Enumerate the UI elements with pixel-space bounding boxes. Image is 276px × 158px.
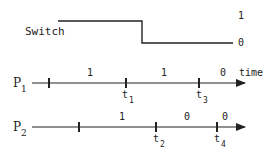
p2-timeline: P 2 1 0 0 t 2 t 4 (13, 111, 245, 149)
p1-tick-t3-label: t (196, 89, 202, 100)
p1-tick-t1-sub: 1 (129, 96, 134, 105)
switch-label: Switch (25, 25, 65, 38)
p1-segment-3: 0 (220, 67, 226, 78)
switch-signal: Switch 1 0 (25, 10, 244, 48)
p1-segment-1: 1 (87, 67, 93, 78)
p1-segment-2: 1 (161, 67, 167, 78)
time-axis-label: time (239, 67, 263, 78)
p1-timeline: P 1 1 1 0 time t 1 t 3 (13, 67, 263, 105)
p2-tick-t4-label: t (214, 133, 220, 144)
p2-segment-3: 0 (222, 111, 228, 122)
p1-tick-t1-label: t (122, 89, 128, 100)
p2-label: P (13, 120, 21, 134)
p2-subscript: 2 (21, 128, 27, 138)
p1-subscript: 1 (21, 84, 27, 94)
timing-diagram: Switch 1 0 P 1 1 1 0 time t 1 t 3 P 2 1 … (0, 0, 276, 158)
p2-tick-t2-sub: 2 (160, 140, 165, 149)
p1-label: P (13, 76, 21, 90)
p2-tick-t2-label: t (153, 133, 159, 144)
p2-segment-2: 0 (184, 111, 190, 122)
p1-tick-t3-sub: 3 (203, 96, 208, 105)
p2-tick-t4-sub: 4 (221, 140, 226, 149)
switch-low-label: 0 (238, 37, 244, 48)
switch-waveform (58, 21, 233, 43)
p2-segment-1: 1 (119, 111, 125, 122)
switch-high-label: 1 (238, 10, 244, 21)
